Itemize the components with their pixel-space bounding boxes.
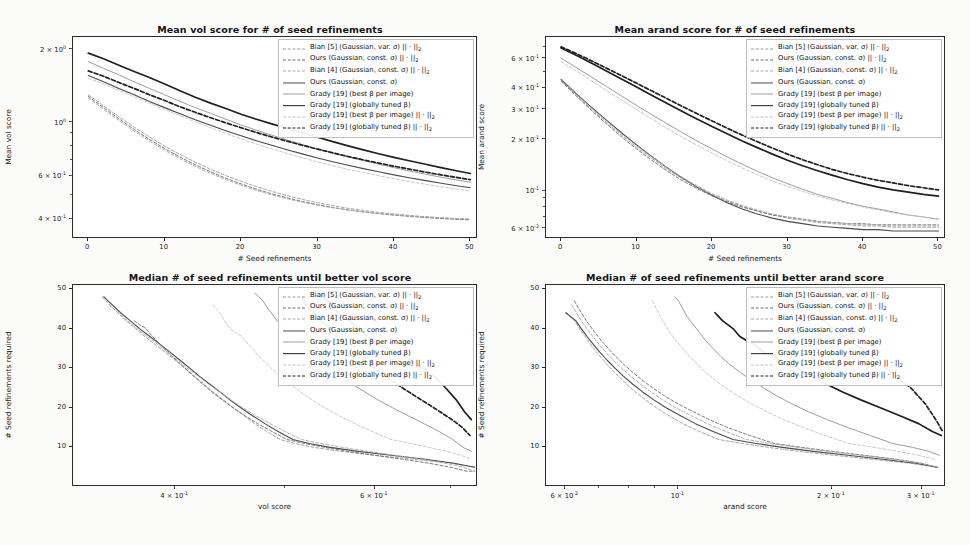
- legend-swatch-grady_best_n: [751, 361, 773, 370]
- y-tickmark: [542, 288, 545, 289]
- x-tick-label: 10-1: [652, 491, 702, 500]
- chart-panel-bottom-right: Median # of seed refinements until bette…: [0, 0, 970, 545]
- y-tickmark: [542, 367, 545, 368]
- y-tickmark: [542, 407, 545, 408]
- legend-label-grady_best_n: Grady [19] (best β per image) || · ||2: [778, 359, 903, 370]
- x-minor-tickmark: [831, 486, 832, 488]
- x-tick-label: 2 × 10-1: [806, 491, 856, 500]
- x-minor-tickmark: [677, 486, 678, 488]
- x-minor-tickmark: [654, 486, 655, 488]
- legend-swatch-ours_c_n: [751, 304, 773, 313]
- legend-entry-ours_c_n[interactable]: Ours (Gaussian, const. σ) || · ||2: [751, 302, 936, 313]
- legend-entry-bian5[interactable]: Bian [5] (Gaussian, var. σ) || · ||2: [751, 291, 936, 302]
- legend-entry-bian4[interactable]: Bian [4] (Gaussian, const. σ) || · ||2: [751, 314, 936, 325]
- legend-label-bian4: Bian [4] (Gaussian, const. σ) || · ||2: [778, 314, 898, 325]
- legend-entry-grady_best_n[interactable]: Grady [19] (best β per image) || · ||2: [751, 359, 936, 370]
- y-tick-label: 50: [487, 284, 539, 292]
- legend-swatch-bian4: [751, 315, 773, 324]
- legend-swatch-bian5: [751, 292, 773, 301]
- chart-legend-bottom-right: Bian [5] (Gaussian, var. σ) || · ||2Ours…: [746, 287, 942, 386]
- y-tick-label: 30: [487, 363, 539, 371]
- legend-label-ours_c_n: Ours (Gaussian, const. σ) || · ||2: [778, 302, 887, 313]
- y-tick-label: 20: [487, 403, 539, 411]
- x-minor-tickmark: [921, 486, 922, 488]
- legend-label-bian5: Bian [5] (Gaussian, var. σ) || · ||2: [778, 291, 889, 302]
- y-axis-label: # Seed refinements required: [477, 284, 486, 486]
- y-tickmark: [542, 328, 545, 329]
- chart-title-bottom-right: Median # of seed refinements until bette…: [520, 272, 950, 283]
- y-tick-label: 40: [487, 324, 539, 332]
- legend-label-grady_glob: Grady [19] (globally tuned β): [778, 349, 879, 358]
- legend-swatch-grady_glob: [751, 349, 773, 358]
- legend-entry-grady_glob[interactable]: Grady [19] (globally tuned β): [751, 348, 936, 359]
- legend-entry-grady_glob_n[interactable]: Grady [19] (globally tuned β) || · ||2: [751, 371, 936, 382]
- x-minor-tickmark: [628, 486, 629, 488]
- legend-swatch-grady_glob_n: [751, 372, 773, 381]
- legend-swatch-grady_best: [751, 338, 773, 347]
- x-minor-tickmark: [564, 486, 565, 488]
- legend-label-grady_best: Grady [19] (best β per image): [778, 338, 882, 347]
- y-tick-label: 10: [487, 442, 539, 450]
- x-minor-tickmark: [598, 486, 599, 488]
- x-tick-label: 6 × 10-2: [539, 491, 589, 500]
- x-axis-label: arand score: [545, 502, 945, 511]
- y-tickmark: [542, 446, 545, 447]
- legend-entry-ours_c[interactable]: Ours (Gaussian, const. σ): [751, 325, 936, 336]
- legend-label-grady_glob_n: Grady [19] (globally tuned β) || · ||2: [778, 371, 900, 382]
- legend-swatch-ours_c: [751, 326, 773, 335]
- figure-container: Mean vol score for # of seed refinements…: [0, 0, 970, 545]
- x-tick-label: 3 × 10-1: [896, 491, 946, 500]
- legend-label-ours_c: Ours (Gaussian, const. σ): [778, 326, 865, 335]
- legend-entry-grady_best[interactable]: Grady [19] (best β per image): [751, 337, 936, 348]
